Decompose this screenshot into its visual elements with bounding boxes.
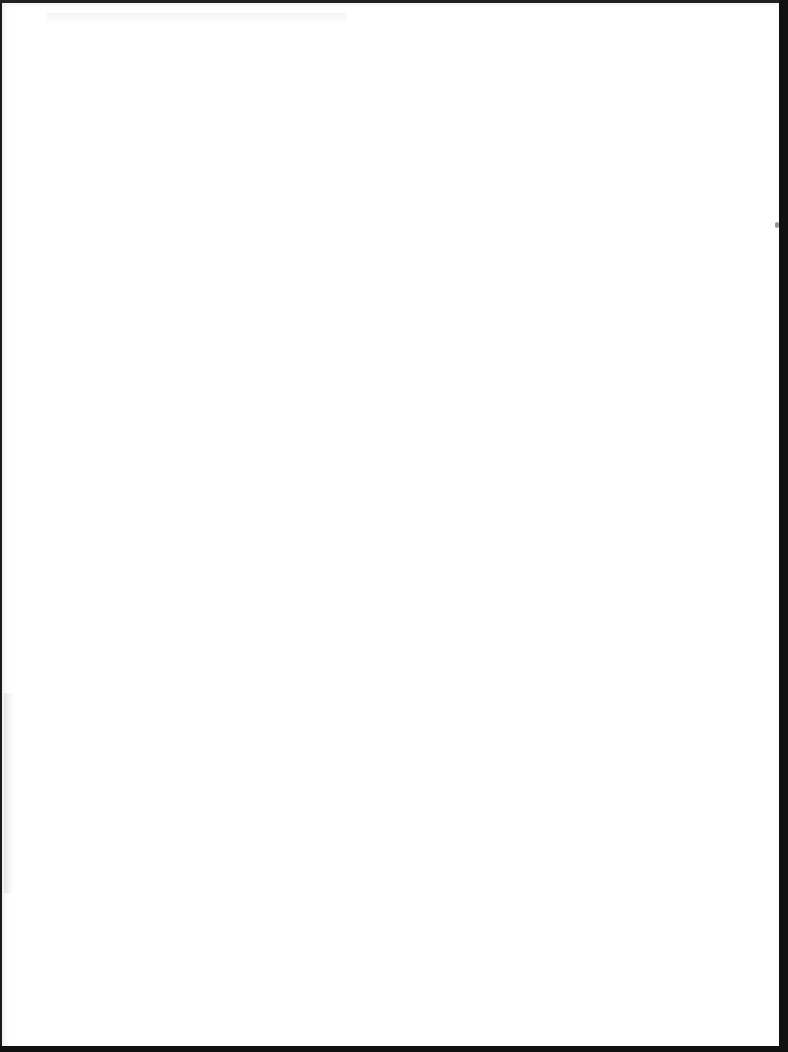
scan-border-bottom	[0, 1046, 788, 1052]
paper-edge-shadow	[4, 693, 14, 893]
paper-shadow	[47, 13, 347, 25]
scan-border-right	[779, 0, 788, 1052]
blank-page	[2, 3, 779, 1047]
page-content	[2, 3, 3, 4]
